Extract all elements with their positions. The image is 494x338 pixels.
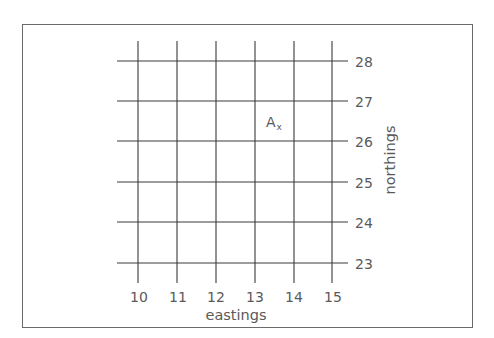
northing-tick-label: 28 — [355, 55, 373, 69]
easting-tick-label: 15 — [324, 290, 342, 304]
easting-tick-label: 14 — [285, 290, 303, 304]
northing-tick-label: 23 — [355, 257, 373, 271]
point-marker-x: x — [277, 122, 282, 132]
point-name: A — [266, 114, 276, 130]
easting-tick-label: 12 — [207, 290, 225, 304]
easting-tick-label: 10 — [130, 290, 148, 304]
y-axis-title: northings — [383, 126, 398, 195]
northing-tick-label: 26 — [355, 135, 373, 149]
grid-lines — [0, 0, 494, 338]
northing-tick-label: 27 — [355, 95, 373, 109]
point-a-label: Ax — [266, 114, 282, 132]
northing-tick-label: 25 — [355, 176, 373, 190]
x-axis-title: eastings — [205, 308, 266, 323]
easting-tick-label: 11 — [169, 290, 187, 304]
easting-tick-label: 13 — [246, 290, 264, 304]
northing-tick-label: 24 — [355, 216, 373, 230]
